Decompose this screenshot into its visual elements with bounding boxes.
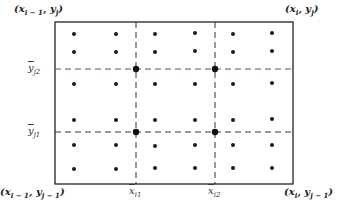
label-y-bar-j1: yj1 — [28, 125, 40, 139]
label-x-bar-i2: xi2 — [208, 185, 220, 199]
intersection-points — [133, 66, 218, 135]
corner-label-top-left: (xi − 1, yj) — [14, 3, 63, 17]
corner-label-bottom-right: (xi, yj − 1) — [284, 186, 333, 200]
label-y-bar-j2: yj2 — [28, 62, 40, 76]
label-x-bar-i1: xi1 — [129, 185, 141, 199]
grid-diagram — [0, 0, 341, 204]
cell-frame — [55, 22, 293, 184]
sample-dots — [72, 31, 274, 171]
corner-label-bottom-left: (xi − 1, yj − 1) — [0, 186, 65, 200]
corner-label-top-right: (xi, yj) — [285, 3, 318, 17]
